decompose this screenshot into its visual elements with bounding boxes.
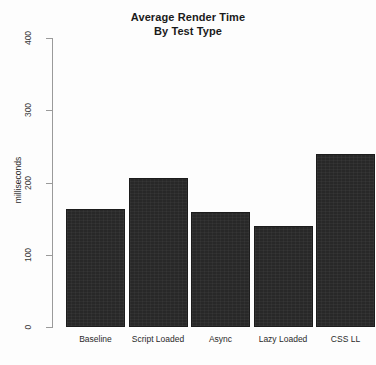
bar-async: [191, 212, 250, 327]
y-tick-label-wrap: 100: [14, 250, 42, 260]
y-tick-label: 0: [23, 313, 33, 341]
y-tick-label: 100: [23, 241, 33, 269]
x-tick-label: CSS LL: [316, 334, 375, 344]
chart-title: Average Render Time By Test Type: [0, 10, 376, 38]
chart-title-line1: Average Render Time: [131, 11, 245, 23]
x-tick-label: Baseline: [66, 334, 125, 344]
x-tick-label: Async: [191, 334, 250, 344]
y-tick-label-wrap: 300: [14, 105, 42, 115]
x-tick-label: Lazy Loaded: [254, 334, 313, 344]
bar-script-loaded: [129, 178, 188, 327]
y-tick-label: 300: [23, 96, 33, 124]
y-tick-label: 400: [23, 24, 33, 52]
bar-baseline: [66, 209, 125, 327]
chart-title-line2: By Test Type: [0, 24, 376, 38]
y-tick-label-wrap: 0: [14, 322, 42, 332]
x-tick-label: Script Loaded: [129, 334, 188, 344]
y-tick-mark: [46, 327, 52, 328]
y-tick-label: 200: [23, 169, 33, 197]
bar-chart: Average Render Time By Test Type 0100200…: [0, 0, 376, 365]
y-tick-label-wrap: 400: [14, 33, 42, 43]
plot-area: [52, 38, 370, 327]
bar-lazy-loaded: [254, 226, 313, 327]
y-axis-title: milliseconds: [13, 140, 23, 220]
bar-css-ll: [316, 154, 375, 327]
